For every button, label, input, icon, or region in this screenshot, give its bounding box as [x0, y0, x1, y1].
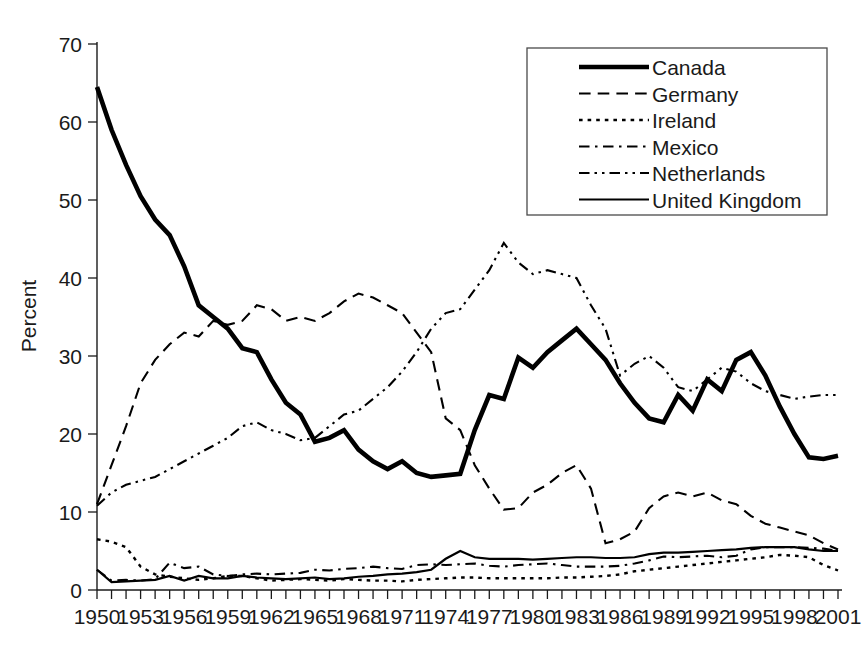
x-tick-label: 1998 [771, 605, 818, 628]
x-tick-label: 1968 [335, 605, 382, 628]
y-tick-label: 30 [59, 345, 82, 368]
series-line-germany [97, 294, 838, 550]
legend-label-ireland: Ireland [652, 109, 716, 132]
x-tick-label: 1989 [640, 605, 687, 628]
y-axis: 010203040506070 [59, 33, 97, 602]
legend-label-germany: Germany [652, 83, 739, 106]
x-tick-label: 1977 [466, 605, 513, 628]
y-tick-label: 0 [70, 579, 82, 602]
y-tick-label: 50 [59, 189, 82, 212]
x-tick-label: 1974 [422, 605, 469, 628]
x-axis: 1950195319561959196219651968197119741977… [74, 590, 862, 628]
x-tick-label: 1959 [204, 605, 251, 628]
x-tick-label: 1971 [379, 605, 426, 628]
series-line-mexico [97, 547, 838, 581]
series-line-netherlands [97, 243, 838, 506]
x-tick-label: 1983 [553, 605, 600, 628]
series-line-ireland [97, 539, 838, 581]
x-tick-label: 1992 [684, 605, 731, 628]
y-axis-title: Percent [17, 280, 40, 353]
x-tick-label: 1962 [248, 605, 295, 628]
x-tick-label: 1986 [597, 605, 644, 628]
line-chart: 010203040506070 195019531956195919621965… [0, 0, 865, 649]
x-tick-label: 1956 [161, 605, 208, 628]
chart-legend: CanadaGermanyIrelandMexicoNetherlandsUni… [527, 48, 827, 215]
legend-label-mexico: Mexico [652, 136, 719, 159]
legend-label-united-kingdom: United Kingdom [652, 189, 801, 212]
legend-label-canada: Canada [652, 56, 726, 79]
y-tick-label: 10 [59, 501, 82, 524]
x-tick-label: 2001 [815, 605, 862, 628]
x-tick-label: 1950 [74, 605, 121, 628]
x-tick-label: 1965 [292, 605, 339, 628]
y-tick-label: 60 [59, 111, 82, 134]
y-tick-label: 40 [59, 267, 82, 290]
y-tick-label: 70 [59, 33, 82, 56]
x-tick-label: 1953 [117, 605, 164, 628]
x-tick-label: 1995 [727, 605, 774, 628]
chart-container: 010203040506070 195019531956195919621965… [0, 0, 865, 649]
legend-label-netherlands: Netherlands [652, 162, 765, 185]
y-tick-label: 20 [59, 423, 82, 446]
x-tick-label: 1980 [510, 605, 557, 628]
